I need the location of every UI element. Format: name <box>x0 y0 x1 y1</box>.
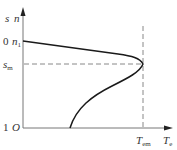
tick-s-one: 1 <box>3 122 9 133</box>
x-label-te: Te <box>163 135 172 150</box>
x-axis-arrow-icon <box>164 126 173 131</box>
y-axis-arrow-icon <box>21 7 26 16</box>
tick-n1: n1 <box>12 36 21 51</box>
tick-tem: Tem <box>136 135 151 150</box>
y-label-n: n <box>14 13 20 24</box>
torque-slip-diagram <box>0 0 177 150</box>
tick-s-zero: 0 <box>3 36 9 47</box>
origin-label: O <box>12 122 20 133</box>
y-label-s: s <box>5 13 9 24</box>
torque-curve <box>23 41 143 128</box>
tick-sm: sm <box>3 59 13 74</box>
